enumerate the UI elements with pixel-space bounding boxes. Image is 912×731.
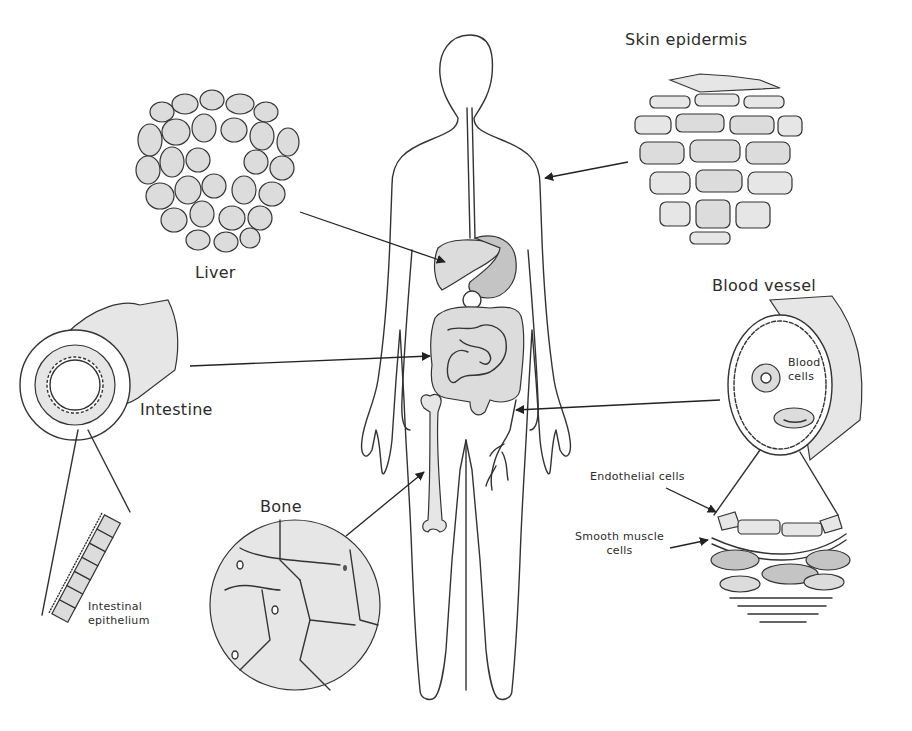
label-intestinal-epithelium-line2: epithelium — [88, 614, 150, 628]
label-blood-cells: Blood cells — [788, 356, 821, 384]
blood-vessel-arrow — [516, 400, 720, 410]
intestine-cross-section — [20, 300, 178, 615]
liver-arrow — [300, 212, 445, 262]
bone-arrow — [346, 472, 424, 536]
vessel-wall-illustration — [711, 512, 850, 622]
esophagus — [467, 108, 475, 238]
femur-bone — [421, 394, 446, 532]
label-intestine: Intestine — [140, 400, 213, 419]
bone-cells-illustration — [210, 520, 380, 690]
skin-epidermis-cells-illustration — [635, 74, 802, 244]
intestine-arrow — [190, 356, 430, 366]
label-smooth-muscle-cells: Smooth muscle cells — [575, 530, 664, 558]
label-intestinal-epithelium-line1: Intestinal — [88, 600, 150, 614]
endothelial-arrow — [666, 488, 716, 512]
blood-vessel-cross-section — [714, 296, 862, 515]
label-skin-epidermis: Skin epidermis — [625, 30, 747, 49]
leg-vein — [486, 400, 516, 490]
label-smooth-muscle-line1: Smooth muscle — [575, 530, 664, 544]
label-blood-cells-line1: Blood — [788, 356, 821, 370]
skin-arrow — [545, 162, 628, 178]
label-intestinal-epithelium: Intestinal epithelium — [88, 600, 150, 628]
label-liver: Liver — [195, 263, 236, 282]
label-bone: Bone — [260, 497, 302, 516]
smooth-muscle-arrow — [670, 540, 708, 548]
label-smooth-muscle-line2: cells — [575, 544, 664, 558]
intestines-organ — [431, 307, 524, 415]
label-blood-vessel: Blood vessel — [712, 276, 816, 295]
label-blood-cells-line2: cells — [788, 370, 821, 384]
label-endothelial-cells: Endothelial cells — [590, 470, 685, 483]
liver-cells-illustration — [136, 90, 299, 252]
